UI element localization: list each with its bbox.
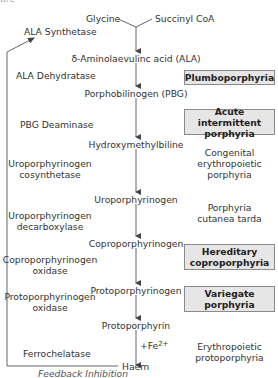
porphyria-plumboporphyria: Plumboporphyria: [184, 70, 275, 85]
glycine-label: Glycine: [86, 13, 120, 24]
enzyme-line: Protoporphyrinogen: [0, 291, 100, 302]
enzyme-line: Coproporphyrinogen: [0, 254, 100, 265]
porphyria-line: erythropoietic: [184, 158, 275, 169]
succinyl-connector: [136, 19, 152, 27]
enzyme-uro-cosynthetase: Uroporphyrinogencosynthetase: [4, 158, 96, 180]
enzyme-line: cosynthetase: [4, 169, 96, 180]
enzyme-ala-synthetase: ALA Synthetase: [24, 26, 97, 37]
enzyme-ala-dehydratase: ALA Dehydratase: [16, 70, 96, 81]
succinyl-coa-label: Succinyl CoA: [155, 13, 214, 24]
enzyme-pbg-deaminase: PBG Deaminase: [20, 119, 93, 130]
metabolite-protoporphyrin: Protoporphyrin: [36, 320, 236, 331]
porphyria-line: Variegate: [204, 288, 254, 299]
porphyria-line: cutanea tarda: [184, 213, 275, 224]
porphyria-acute-intermittent: Acute intermittentporphyria: [184, 109, 275, 135]
enzyme-line: Uroporphyrinogen: [4, 158, 96, 169]
porphyria-erythropoietic-protoporphyria: Erythropoieticprotoporphyria: [184, 341, 275, 363]
porphyria-hereditary-coproporphyria: Hereditarycoproporphyria: [184, 244, 275, 270]
iron-cofactor-label: +Fe2+: [140, 339, 168, 351]
porphyria-line: coproporphyria: [190, 257, 270, 268]
enzyme-line: oxidase: [0, 265, 100, 276]
porphyria-line: Erythropoietic: [184, 341, 275, 352]
feedback-inhibition-label: Feedback Inhibition: [38, 368, 128, 378]
porphyria-cutanea-tarda: Porphyriacutanea tarda: [184, 202, 275, 224]
porphyria-variegate: Variegateporphyria: [184, 286, 275, 312]
porphyria-line: Acute intermittent: [185, 106, 274, 128]
enzyme-ferrochelatase: Ferrochelatase: [23, 348, 91, 359]
porphyria-line: Congenital: [184, 147, 275, 158]
metabolite-pbg: Porphobilinogen (PBG): [36, 88, 236, 99]
porphyria-congenital-erythropoietic: Congenitalerythropoieticporphyria: [184, 147, 275, 180]
enzyme-uro-decarboxylase: Uroporphyrinogendecarboxylase: [4, 210, 96, 232]
porphyria-line: porphyria: [204, 299, 254, 310]
porphyria-line: protoporphyria: [184, 352, 275, 363]
metabolite-ala: δ-Aminolaevulinc acid (ALA): [36, 53, 236, 64]
enzyme-copro-oxidase: Coproporphyrinogenoxidase: [0, 254, 100, 276]
glycine-connector: [118, 19, 136, 27]
porphyria-line: porphyria: [204, 128, 254, 139]
porphyria-line: porphyria: [184, 169, 275, 180]
enzyme-proto-oxidase: Protoporphyrinogenoxidase: [0, 291, 100, 313]
enzyme-line: Uroporphyrinogen: [4, 210, 96, 221]
clipped-top-text: ure: [0, 0, 15, 4]
enzyme-line: oxidase: [0, 302, 100, 313]
porphyria-line: Porphyria: [184, 202, 275, 213]
porphyria-line: Hereditary: [202, 246, 258, 257]
iron-text: +Fe: [140, 340, 158, 351]
iron-charge: 2+: [158, 340, 168, 348]
enzyme-line: decarboxylase: [4, 221, 96, 232]
porphyria-line: Plumboporphyria: [185, 72, 274, 83]
